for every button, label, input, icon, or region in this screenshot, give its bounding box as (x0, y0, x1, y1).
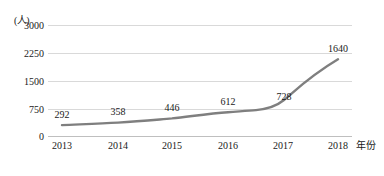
data-point-label-2014: 358 (98, 107, 138, 117)
data-point-label-2013: 292 (42, 110, 82, 120)
gridlines (48, 25, 352, 109)
data-point-label-2016: 612 (208, 97, 248, 107)
data-point-label-2018: 1640 (318, 44, 358, 54)
data-point-label-2015: 446 (152, 103, 192, 113)
data-point-label-2017: 728 (264, 92, 304, 102)
line-chart: (人) 3000 2250 1500 750 0 292 358 446 612… (0, 0, 384, 176)
x-tick-label-2017: 2017 (261, 141, 305, 151)
x-tick-label-2013: 2013 (40, 141, 84, 151)
x-tick-label-2014: 2014 (96, 141, 140, 151)
x-tick-label-2016: 2016 (206, 141, 250, 151)
x-tick-label-2018: 2018 (316, 141, 360, 151)
x-axis-title: 年份 (356, 141, 376, 151)
x-tick-label-2015: 2015 (150, 141, 194, 151)
